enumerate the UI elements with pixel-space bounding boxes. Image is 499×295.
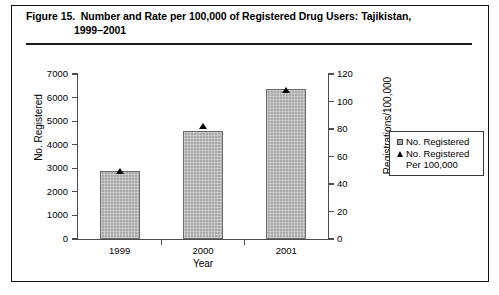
- y-axis-right-tick: [329, 128, 334, 129]
- y-axis-right-tick-label: 120: [337, 69, 367, 79]
- legend-label-line-2: Per 100,000: [406, 159, 479, 170]
- title-divider: [26, 43, 472, 45]
- triangle-marker-2001: [282, 87, 290, 93]
- figure-title-line-1: Figure 15. Number and Rate per 100,000 o…: [26, 9, 472, 23]
- square-marker-icon: [394, 136, 406, 147]
- triangle-marker-2000: [199, 123, 207, 129]
- y-axis-right-title: Registrations/100,000: [382, 46, 393, 206]
- y-axis-right-tick-label: 0: [337, 234, 367, 244]
- x-axis-label-2000: 2000: [173, 245, 233, 256]
- legend-item-label: No. Registered Per 100,000: [406, 148, 479, 170]
- y-axis-right-tick: [329, 238, 334, 239]
- y-axis-left-tick-label: 6000: [22, 93, 68, 103]
- legend-label-line-1: No. Registered: [406, 136, 469, 147]
- y-axis-left-tick: [72, 215, 77, 216]
- x-axis-tick: [161, 240, 162, 245]
- x-axis-tick: [244, 240, 245, 245]
- legend-item-no-registered: No. Registered: [394, 136, 479, 147]
- y-axis-right-tick: [329, 156, 334, 157]
- x-axis-label-1999: 1999: [90, 245, 150, 256]
- legend-item-no-registered-per-100000: No. Registered Per 100,000: [394, 148, 479, 170]
- bar-2001: [266, 89, 306, 239]
- y-axis-left-tick: [72, 73, 77, 74]
- triangle-marker-1999: [116, 168, 124, 174]
- y-axis-right-tick: [329, 211, 334, 212]
- triangle-marker-icon: [394, 148, 406, 159]
- y-axis-left-tick-label: 2000: [22, 187, 68, 197]
- y-axis-left-tick: [72, 121, 77, 122]
- y-axis-right-tick-label: 100: [337, 97, 367, 107]
- y-axis-left-tick: [72, 97, 77, 98]
- y-axis-left-tick-label: 1000: [22, 210, 68, 220]
- y-axis-left-tick: [72, 144, 77, 145]
- y-axis-left-tick: [72, 191, 77, 192]
- y-axis-left-tick: [72, 238, 77, 239]
- y-axis-right-tick-label: 40: [337, 179, 367, 189]
- y-axis-right-tick-label: 60: [337, 152, 367, 162]
- y-axis-left-tick-label: 3000: [22, 163, 68, 173]
- y-axis-right-tick-label: 20: [337, 207, 367, 217]
- y-axis-right-tick-label: 80: [337, 124, 367, 134]
- legend-item-label: No. Registered: [406, 136, 479, 147]
- y-axis-left-tick-label: 7000: [22, 69, 68, 79]
- legend-label-line-1: No. Registered: [406, 148, 469, 159]
- y-axis-left-tick-label: 5000: [22, 116, 68, 126]
- y-axis-left-tick-label: 0: [22, 234, 68, 244]
- y-axis-right-tick: [329, 73, 334, 74]
- x-axis-title: Year: [173, 258, 233, 269]
- y-axis-left-tick-label: 4000: [22, 140, 68, 150]
- x-axis-line: [77, 239, 329, 240]
- y-axis-right-tick: [329, 101, 334, 102]
- y-axis-left-tick: [72, 168, 77, 169]
- legend: No. Registered No. Registered Per 100,00…: [389, 131, 484, 176]
- bar-2000: [183, 131, 223, 239]
- x-axis-label-2001: 2001: [256, 245, 316, 256]
- figure-title: Figure 15. Number and Rate per 100,000 o…: [26, 9, 472, 37]
- bar-1999: [100, 171, 140, 239]
- figure-title-line-2: 1999–2001: [26, 23, 472, 37]
- y-axis-right-tick: [329, 183, 334, 184]
